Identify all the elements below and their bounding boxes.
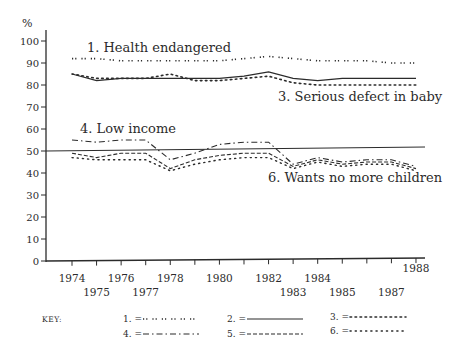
x-tick-label: 1988 bbox=[403, 262, 430, 274]
x-tick-label: 1980 bbox=[206, 272, 233, 284]
legend-entry-label: 3. = bbox=[330, 312, 349, 322]
x-tick-label: 1983 bbox=[280, 286, 307, 298]
y-axis-label: % bbox=[22, 17, 32, 30]
legend-entry-label: 4. = bbox=[123, 329, 142, 339]
y-tick-label: 40 bbox=[26, 168, 39, 179]
y-tick-label: 10 bbox=[26, 234, 39, 245]
y-tick-label: 0 bbox=[33, 256, 39, 267]
chart-annotations: 1. Health endangered3. Serious defect in… bbox=[80, 40, 443, 185]
x-tick-label: 1987 bbox=[378, 286, 405, 298]
series-2-line bbox=[72, 72, 416, 81]
y-tick-label: 50 bbox=[26, 146, 39, 157]
line-chart: %010203040506070809010019741975197619771… bbox=[0, 0, 452, 358]
y-tick-label: 20 bbox=[26, 212, 39, 223]
chart-axes: %010203040506070809010019741975197619771… bbox=[20, 17, 429, 298]
series-annotation: 4. Low income bbox=[80, 121, 176, 136]
x-tick-label: 1975 bbox=[83, 286, 110, 298]
legend-title: KEY: bbox=[42, 315, 62, 324]
y-tick-label: 90 bbox=[26, 58, 39, 69]
reference-line-50 bbox=[46, 147, 425, 151]
x-tick-label: 1982 bbox=[255, 272, 282, 284]
series-4-line bbox=[72, 140, 416, 166]
legend-entry-label: 5. = bbox=[227, 329, 246, 339]
x-tick-label: 1976 bbox=[108, 272, 135, 284]
y-tick-label: 60 bbox=[26, 124, 39, 135]
series-annotation: 3. Serious defect in baby bbox=[278, 89, 443, 104]
legend-entry-label: 1. = bbox=[123, 314, 142, 324]
y-tick-label: 70 bbox=[26, 102, 39, 113]
y-tick-label: 80 bbox=[26, 80, 39, 91]
x-tick-label: 1977 bbox=[132, 286, 159, 298]
series-annotation: 1. Health endangered bbox=[87, 40, 231, 55]
chart-series bbox=[46, 56, 425, 170]
series-annotation: 6. Wants no more children bbox=[268, 170, 443, 185]
y-tick-label: 30 bbox=[26, 190, 39, 201]
chart-legend: KEY:1. =2. =3. =4. =5. =6. = bbox=[42, 312, 406, 339]
series-5-line bbox=[72, 153, 416, 168]
x-axis bbox=[46, 258, 425, 261]
x-tick-label: 1978 bbox=[157, 272, 184, 284]
x-tick-label: 1985 bbox=[329, 286, 356, 298]
series-1-line bbox=[72, 56, 416, 63]
legend-entry-label: 6. = bbox=[330, 326, 349, 336]
legend-entry-label: 2. = bbox=[227, 314, 246, 324]
x-tick-label: 1984 bbox=[304, 272, 331, 284]
x-tick-label: 1974 bbox=[59, 272, 86, 284]
y-tick-label: 100 bbox=[20, 36, 39, 47]
